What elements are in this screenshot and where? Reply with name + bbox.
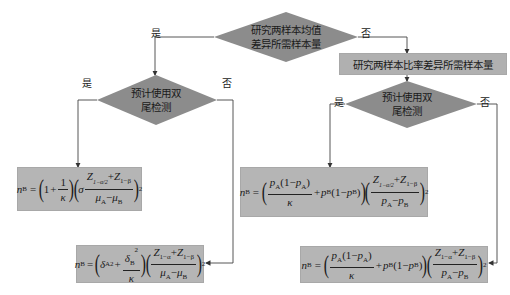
proportion-box-text: 研究两样本比率差异所需样本量	[353, 57, 493, 72]
top-decision-text: 研究两样本均值 差异所需样本量	[236, 23, 336, 51]
formula-mean-two-tailed-box: nB = ( 1+ 1κ ) ( σ Z1−α/2+Z1−β μA−μB )2	[17, 167, 142, 211]
left-decision-line2: 尾检测	[121, 100, 191, 114]
right-yes-label: 是	[334, 94, 344, 109]
top-no-label: 否	[361, 25, 371, 40]
formula-prop-one-tailed-box: nB = ( pA(1−pA) κ + pB(1−pB) ) ( Z1−α+Z1…	[300, 246, 488, 283]
top-yes-label: 是	[151, 25, 161, 40]
formula-mean-one-tailed: nB = ( δA2 + δB2κ ) ( Z1−α+Z1−β μA−μB )2	[75, 244, 205, 284]
connector-right-no	[477, 104, 497, 263]
formula-prop-two-tailed-box: nB = ( pA(1−pA) κ + pB(1−pB) ) ( Z1−α/2+…	[240, 167, 428, 217]
right-decision-line2: 尾检测	[372, 104, 442, 118]
right-no-label: 否	[480, 94, 490, 109]
right-decision-line1: 预计使用双	[372, 90, 442, 104]
connector-top-yes	[155, 37, 214, 75]
connector-left-no	[206, 100, 233, 263]
top-decision-line1: 研究两样本均值	[236, 23, 336, 37]
top-decision-line2: 差异所需样本量	[236, 37, 336, 51]
left-decision-line1: 预计使用双	[121, 86, 191, 100]
proportion-sample-size-box: 研究两样本比率差异所需样本量	[339, 53, 507, 75]
right-decision-text: 预计使用双 尾检测	[372, 90, 442, 118]
formula-prop-one-tailed: nB = ( pA(1−pA) κ + pB(1−pB) ) ( Z1−α+Z1…	[302, 246, 487, 283]
formula-prop-two-tailed: nB = ( pA(1−pA) κ + pB(1−pB) ) ( Z1−α/2+…	[240, 173, 429, 211]
left-yes-label: 是	[82, 75, 92, 90]
left-decision-text: 预计使用双 尾检测	[121, 86, 191, 114]
left-no-label: 否	[222, 75, 232, 90]
connector-right-yes	[330, 104, 345, 167]
formula-mean-one-tailed-box: nB = ( δA2 + δB2κ ) ( Z1−α+Z1−β μA−μB )2	[76, 245, 204, 283]
connector-left-yes	[78, 100, 97, 167]
formula-mean-two-tailed: nB = ( 1+ 1κ ) ( σ Z1−α/2+Z1−β μA−μB )2	[17, 170, 143, 208]
